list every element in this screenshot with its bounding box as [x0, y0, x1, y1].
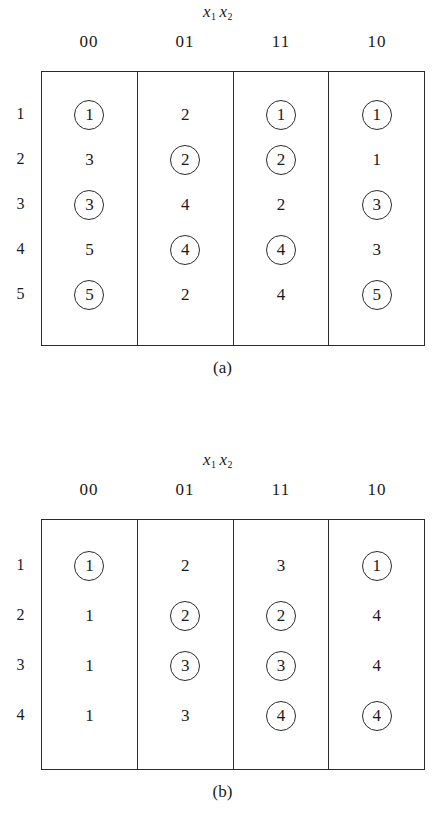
column-headers-a: 00 01 11 10	[41, 32, 425, 52]
cell-value: 5	[74, 280, 104, 310]
cell-value: 1	[362, 551, 392, 581]
column-header-10: 10	[329, 480, 425, 500]
column-header-01: 01	[137, 480, 233, 500]
column-header-10: 10	[329, 32, 425, 52]
kmap-column-01: 2 2 4 4 2	[138, 72, 234, 345]
kmap-column-00: 1 1 1 1	[42, 520, 138, 769]
cell-value: 1	[362, 100, 392, 130]
variable-x2: x2	[220, 2, 234, 21]
cell-value: 5	[362, 280, 392, 310]
column-header-01: 01	[137, 32, 233, 52]
kmap-column-10: 1 4 4 4	[329, 520, 424, 769]
kmap-grid-a: 1 3 3 5 5 2 2 4 4 2 1 2 2 4 4 1 1 3 3 5	[41, 71, 425, 346]
column-header-11: 11	[233, 32, 329, 52]
cell-value: 3	[74, 145, 104, 175]
variable-x1: x1	[203, 450, 217, 469]
cell-value: 2	[170, 601, 200, 631]
kmap-column-11: 1 2 2 4 4	[234, 72, 330, 345]
column-headers-b: 00 01 11 10	[41, 480, 425, 500]
variable-label-b: x1x2	[203, 450, 233, 470]
cell-value: 4	[170, 235, 200, 265]
cell-value: 1	[74, 651, 104, 681]
cell-value: 1	[74, 601, 104, 631]
cell-value: 2	[266, 145, 296, 175]
column-header-00: 00	[41, 32, 137, 52]
cell-value: 1	[266, 100, 296, 130]
cell-value: 5	[74, 235, 104, 265]
cell-value: 4	[362, 601, 392, 631]
cell-value: 2	[266, 601, 296, 631]
cell-value: 3	[266, 551, 296, 581]
cell-value: 2	[170, 280, 200, 310]
cell-value: 3	[74, 190, 104, 220]
cell-value: 4	[266, 235, 296, 265]
kmap-grid-b: 1 1 1 1 2 2 3 3 3 2 3 4 1 4 4 4	[41, 519, 425, 770]
cell-value: 1	[362, 145, 392, 175]
cell-value: 3	[266, 651, 296, 681]
cell-value: 2	[170, 145, 200, 175]
column-header-00: 00	[41, 480, 137, 500]
cell-value: 4	[266, 701, 296, 731]
column-header-11: 11	[233, 480, 329, 500]
variable-label-a: x1x2	[203, 2, 233, 22]
cell-value: 3	[362, 235, 392, 265]
cell-value: 4	[170, 190, 200, 220]
cell-value: 3	[362, 190, 392, 220]
kmap-column-00: 1 3 3 5 5	[42, 72, 138, 345]
cell-value: 2	[170, 100, 200, 130]
cell-value: 3	[170, 651, 200, 681]
cell-value: 4	[266, 280, 296, 310]
kmap-column-11: 3 2 3 4	[234, 520, 330, 769]
variable-x1: x1	[203, 2, 217, 21]
cell-value: 3	[170, 701, 200, 731]
cell-value: 1	[74, 701, 104, 731]
kmap-column-01: 2 2 3 3	[138, 520, 234, 769]
cell-value: 1	[74, 551, 104, 581]
kmap-column-10: 1 1 3 3 5	[329, 72, 424, 345]
figure-caption-b: (b)	[0, 782, 445, 802]
cell-value: 2	[170, 551, 200, 581]
cell-value: 4	[362, 701, 392, 731]
cell-value: 4	[362, 651, 392, 681]
figure-caption-a: (a)	[0, 358, 445, 378]
variable-x2: x2	[220, 450, 234, 469]
cell-value: 1	[74, 100, 104, 130]
cell-value: 2	[266, 190, 296, 220]
